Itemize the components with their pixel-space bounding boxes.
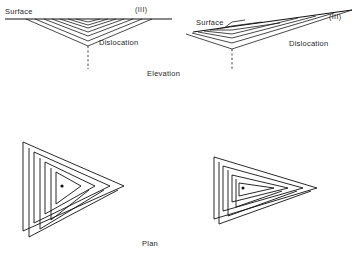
elevation-left-surface-label: Surface [5,8,33,16]
plan-left-dislocation-point [60,184,63,187]
plan-left-spiral-turn-2 [29,148,118,237]
elevation-right-plane-index-label: (III) [329,13,342,20]
plan-right-group [214,157,317,224]
elevation-right-dislocation-label: Dislocation [289,40,328,48]
elevation-left-step-4 [52,19,124,32]
elevation-section-title: Elevation [147,70,180,78]
elevation-left-plane-index-label: (III) [135,6,148,13]
plan-right-spiral-turn-7 [239,183,274,196]
elevation-left-step-3 [60,19,116,28]
elevation-left-dislocation-label: Dislocation [99,39,138,47]
elevation-left-group [5,19,172,69]
plan-right-spiral-turn-5 [232,175,288,202]
plan-section-title: Plan [142,240,158,248]
crystal-growth-spiral-figure: Surface (III) Dislocation Surface (III) … [0,0,360,259]
plan-left-group [23,142,124,237]
elevation-right-surface-label: Surface [196,19,224,27]
plan-right-dislocation-point [242,187,245,190]
